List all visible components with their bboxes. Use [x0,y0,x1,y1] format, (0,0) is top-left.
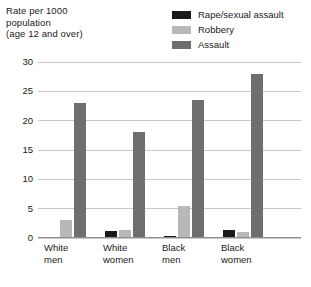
bars-layer [38,62,301,238]
bar [133,132,145,238]
x-axis-labels: White menWhite womenBlack menBlack women [38,242,301,272]
bar-group [105,62,145,238]
y-axis-tick-label: 10 [22,175,33,185]
legend-item-label: Assault [198,40,229,50]
bar-group [46,62,86,238]
y-axis-title: Rate per 1000 population (age 12 and ove… [6,5,83,40]
bar [60,220,72,238]
bar-group [164,62,204,238]
bar-group [223,62,263,238]
x-axis-category-label: White women [103,242,134,265]
legend-item: Robbery [172,23,284,38]
bar [74,103,86,238]
y-axis-tick-label: 30 [22,57,33,67]
bar [192,100,204,238]
bar-chart: Rate per 1000 population (age 12 and ove… [0,0,311,287]
legend-item-label: Robbery [198,25,234,35]
plot-area: 051015202530 [38,62,301,238]
y-axis-tick-label: 15 [22,145,33,155]
legend-swatch-icon [172,26,191,34]
x-axis-category-label: Black men [162,242,185,265]
y-axis-tick-label: 25 [22,87,33,97]
legend-item: Assault [172,38,284,53]
y-axis-tick-label: 20 [22,116,33,126]
y-axis-tick-label: 5 [28,204,33,214]
x-axis-category-label: White men [44,242,68,265]
y-axis-tick-label: 0 [28,233,33,243]
chart-legend: Rape/sexual assaultRobberyAssault [172,8,284,52]
legend-item-label: Rape/sexual assault [198,10,284,20]
x-axis-line [38,237,301,238]
legend-swatch-icon [172,11,191,19]
legend-item: Rape/sexual assault [172,8,284,23]
bar [178,206,190,238]
bar [251,74,263,238]
legend-swatch-icon [172,41,191,49]
x-axis-category-label: Black women [221,242,252,265]
